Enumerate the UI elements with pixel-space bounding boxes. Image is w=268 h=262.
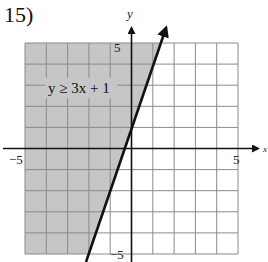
x-axis-label: x — [262, 144, 267, 154]
y-min-label: −5 — [110, 247, 124, 262]
y-max-label: 5 — [114, 40, 121, 55]
x-min-label: −5 — [9, 152, 23, 167]
y-axis-label: y — [125, 6, 133, 21]
x-max-label: 5 — [233, 152, 240, 167]
inequality-graph: y ≥ 3x + 1 5 −5 −5 5 y x — [0, 0, 268, 262]
inequality-annotation: y ≥ 3x + 1 — [48, 80, 110, 96]
